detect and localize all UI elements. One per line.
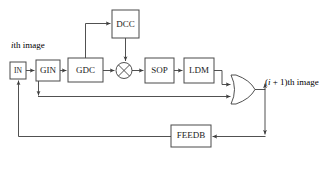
block-feedb-label: FEEDB (177, 130, 206, 140)
connector-ldm-to-merge (214, 71, 230, 85)
block-gin-label: GIN (40, 65, 56, 75)
circle-cross-multiplier-icon (116, 63, 132, 79)
output-image-suffix: + 1)th image (271, 77, 319, 87)
merge-junction-icon (231, 75, 255, 104)
block-in-label: IN (14, 66, 23, 75)
block-sop-label: SOP (151, 65, 168, 75)
block-dcc-label: DCC (116, 19, 135, 29)
block-ldm-label: LDM (189, 65, 209, 75)
input-image-label: ith image (11, 40, 45, 50)
connector-feedb-to-in (19, 81, 172, 137)
input-image-suffix: th image (14, 40, 45, 50)
block-diagram: IN GIN GDC DCC SOP LDM FEEDB ith image (… (0, 0, 330, 170)
connector-merge-to-output (255, 84, 265, 90)
output-image-label: (i + 1)th image (265, 77, 319, 87)
connector-gdc-to-dcc (86, 24, 111, 59)
block-gdc-label: GDC (76, 65, 95, 75)
